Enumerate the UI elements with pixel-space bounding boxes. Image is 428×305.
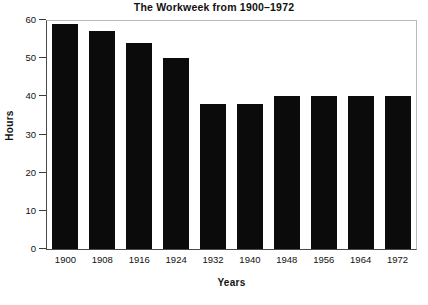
y-tick-label: 60 — [25, 13, 36, 26]
y-tick-label: 20 — [25, 166, 36, 179]
bars-layer — [47, 20, 416, 249]
y-tick-mark — [39, 134, 46, 135]
x-tick-label: 1948 — [267, 254, 307, 265]
bar — [348, 96, 374, 249]
y-tick-label: 0 — [31, 242, 36, 255]
x-tick-label: 1956 — [304, 254, 344, 265]
y-tick-label: 40 — [25, 89, 36, 102]
y-tick-mark — [39, 172, 46, 173]
y-axis-title-text: Hours — [4, 110, 15, 140]
x-tick-label: 1900 — [45, 254, 85, 265]
y-tick-label: 50 — [25, 51, 36, 64]
y-tick-label: 10 — [25, 204, 36, 217]
bar — [311, 96, 337, 249]
bar — [163, 58, 189, 249]
bar — [126, 43, 152, 249]
bar-chart: The Workweek from 1900–1972 Hours 010203… — [0, 0, 428, 305]
x-tick-label: 1940 — [230, 254, 270, 265]
bar — [385, 96, 411, 249]
bar — [89, 31, 115, 249]
y-tick-mark — [39, 57, 46, 58]
y-axis-title: Hours — [2, 0, 16, 250]
y-tick-mark — [39, 19, 46, 20]
bar — [237, 104, 263, 249]
y-tick-mark — [39, 248, 46, 249]
y-tick-mark — [39, 95, 46, 96]
bar — [274, 96, 300, 249]
x-tick-label: 1916 — [119, 254, 159, 265]
y-tick-mark — [39, 210, 46, 211]
x-tick-label: 1972 — [378, 254, 418, 265]
x-tick-label: 1964 — [341, 254, 381, 265]
x-tick-label: 1924 — [156, 254, 196, 265]
bar — [200, 104, 226, 249]
x-axis-title: Years — [46, 277, 417, 288]
bar — [52, 24, 78, 249]
chart-title: The Workweek from 1900–1972 — [0, 1, 428, 13]
y-tick-label: 30 — [25, 128, 36, 141]
x-tick-label: 1908 — [82, 254, 122, 265]
x-tick-label: 1932 — [193, 254, 233, 265]
